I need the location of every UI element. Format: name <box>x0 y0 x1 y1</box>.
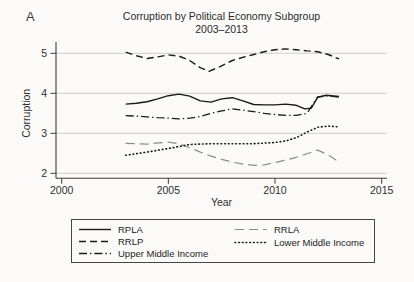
legend-label-lower-middle-income: Lower Middle Income <box>274 237 364 248</box>
legend-line-sample-rpla <box>78 225 112 234</box>
xtick-label-2005: 2005 <box>157 184 181 196</box>
legend-label-rrlp: RRLP <box>118 236 143 247</box>
series-line-rrla <box>126 142 339 165</box>
legend-column-2: RRLA Lower Middle Income <box>234 223 374 260</box>
figure-panel: A Corruption by Political Economy Subgro… <box>0 0 414 282</box>
y-axis-title: Corruption <box>20 89 32 138</box>
xtick-label-2010: 2010 <box>263 184 287 196</box>
legend-line-sample-upper-middle-income <box>78 249 112 258</box>
legend-line-sample-rrlp <box>78 237 112 246</box>
legend-label-rrla: RRLA <box>274 224 299 235</box>
ytick-label-3: 3 <box>41 127 47 139</box>
legend-line-sample-lower-middle-income <box>234 238 268 247</box>
series-line-rpla <box>126 94 339 109</box>
legend-label-rpla: RPLA <box>118 224 143 235</box>
series-line-rrlp <box>126 49 339 71</box>
legend-item-rrla: RRLA <box>234 223 374 236</box>
legend-item-upper-middle-income: Upper Middle Income <box>78 248 234 260</box>
ytick-label-2: 2 <box>41 167 47 179</box>
legend-line-sample-rrla <box>234 225 268 234</box>
legend-item-rrlp: RRLP <box>78 235 234 247</box>
ytick-label-5: 5 <box>41 47 47 59</box>
line-chart: 54322000200520102015YearCorruption <box>0 0 414 214</box>
legend-item-lower-middle-income: Lower Middle Income <box>234 236 374 249</box>
xtick-label-2000: 2000 <box>50 184 74 196</box>
xtick-label-2015: 2015 <box>370 184 394 196</box>
x-axis-title: Year <box>211 196 233 208</box>
legend-label-upper-middle-income: Upper Middle Income <box>118 248 208 259</box>
ytick-label-4: 4 <box>41 87 47 99</box>
legend-column-1: RPLA RRLP Upper Middle Income <box>78 223 234 260</box>
legend-item-rpla: RPLA <box>78 223 234 235</box>
series-line-lower-middle-income <box>126 126 339 155</box>
legend: RPLA RRLP Upper Middle Income RRLA Lower… <box>71 219 375 263</box>
